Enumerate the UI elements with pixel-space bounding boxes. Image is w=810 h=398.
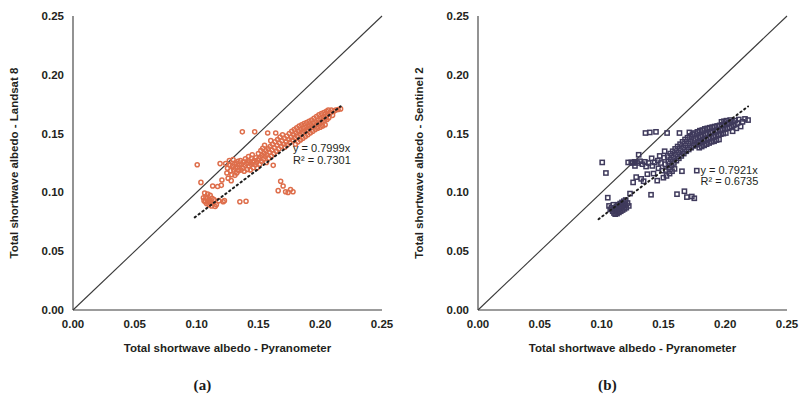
data-point — [651, 171, 655, 175]
x-axis-title: Total shortwave albedo - Pyranometer — [529, 342, 737, 354]
x-tick-label: 0.10 — [185, 318, 207, 330]
data-point — [240, 130, 244, 134]
data-point — [677, 131, 681, 135]
data-point — [291, 190, 295, 194]
panel-a: 0.000.050.100.150.200.250.000.050.100.15… — [0, 0, 405, 398]
data-point — [655, 179, 659, 183]
plot-svg: 0.000.050.100.150.200.250.000.050.100.15… — [0, 0, 405, 368]
data-point — [276, 189, 280, 193]
data-point — [665, 131, 669, 135]
data-point — [199, 180, 203, 184]
data-point — [266, 131, 270, 135]
data-point — [244, 199, 248, 203]
x-tick-label: 0.20 — [714, 318, 736, 330]
x-tick-label: 0.25 — [371, 318, 394, 330]
x-tick-label: 0.05 — [529, 318, 552, 330]
data-point — [682, 189, 686, 193]
data-point — [654, 130, 658, 134]
x-axis-title: Total shortwave albedo - Pyranometer — [124, 342, 332, 354]
y-tick-label: 0.20 — [42, 69, 64, 81]
data-point — [645, 172, 649, 176]
data-point — [734, 126, 738, 130]
data-point — [663, 149, 667, 153]
data-point — [685, 195, 689, 199]
r-squared-label: R² = 0.6735 — [700, 175, 758, 187]
x-tick-label: 0.20 — [309, 318, 331, 330]
x-tick-label: 0.05 — [124, 318, 147, 330]
data-point — [643, 131, 647, 135]
data-point — [606, 196, 610, 200]
equation-label: y = 0.7999x — [293, 142, 351, 154]
data-point — [634, 175, 638, 179]
data-point — [229, 179, 233, 183]
data-point — [604, 171, 608, 175]
data-point — [631, 180, 635, 184]
data-point — [263, 143, 267, 147]
x-tick-label: 0.25 — [776, 318, 799, 330]
panel-a-caption: (a) — [0, 377, 405, 394]
y-tick-label: 0.10 — [42, 186, 64, 198]
plot-svg: 0.000.050.100.150.200.250.000.050.100.15… — [405, 0, 810, 368]
data-point — [279, 179, 283, 183]
data-point — [637, 153, 641, 157]
data-point — [600, 160, 604, 164]
data-point — [658, 154, 662, 158]
panel-b: 0.000.050.100.150.200.250.000.050.100.15… — [405, 0, 810, 398]
scatter-plot-landsat8: 0.000.050.100.150.200.250.000.050.100.15… — [0, 0, 405, 368]
figure-container: 0.000.050.100.150.200.250.000.050.100.15… — [0, 0, 810, 398]
y-axis-title: Total shortwave albedo - Landsat 8 — [8, 67, 20, 258]
data-point — [238, 200, 242, 204]
data-point — [281, 184, 285, 188]
y-tick-label: 0.20 — [447, 69, 469, 81]
data-point — [220, 178, 224, 182]
data-point — [211, 184, 215, 188]
x-tick-label: 0.10 — [590, 318, 612, 330]
r-squared-label: R² = 0.7301 — [293, 154, 351, 166]
data-point — [649, 193, 653, 197]
data-point — [648, 130, 652, 134]
y-tick-label: 0.05 — [447, 245, 470, 257]
y-tick-label: 0.25 — [42, 10, 65, 22]
y-tick-label: 0.25 — [447, 10, 470, 22]
data-point — [218, 162, 222, 166]
data-point — [739, 124, 743, 128]
y-tick-label: 0.15 — [42, 128, 65, 140]
data-point — [675, 192, 679, 196]
x-tick-label: 0.15 — [247, 318, 270, 330]
y-tick-label: 0.00 — [447, 304, 469, 316]
data-point — [659, 161, 663, 165]
data-point — [219, 183, 223, 187]
equation-label: y = 0.7921x — [700, 164, 758, 176]
panel-b-caption: (b) — [405, 377, 810, 394]
y-tick-label: 0.10 — [447, 186, 469, 198]
y-tick-label: 0.00 — [42, 304, 64, 316]
x-tick-label: 0.00 — [467, 318, 489, 330]
data-point — [680, 169, 684, 173]
data-point — [271, 163, 275, 167]
data-point — [274, 131, 278, 135]
data-point — [253, 130, 257, 134]
y-axis-title: Total shortwave albedo - Sentinel 2 — [413, 67, 425, 259]
y-tick-label: 0.15 — [447, 128, 470, 140]
data-point — [195, 163, 199, 167]
x-tick-label: 0.15 — [652, 318, 675, 330]
scatter-plot-sentinel2: 0.000.050.100.150.200.250.000.050.100.15… — [405, 0, 810, 368]
data-point — [746, 118, 750, 122]
y-tick-label: 0.05 — [42, 245, 65, 257]
data-point — [695, 169, 699, 173]
x-tick-label: 0.00 — [62, 318, 84, 330]
